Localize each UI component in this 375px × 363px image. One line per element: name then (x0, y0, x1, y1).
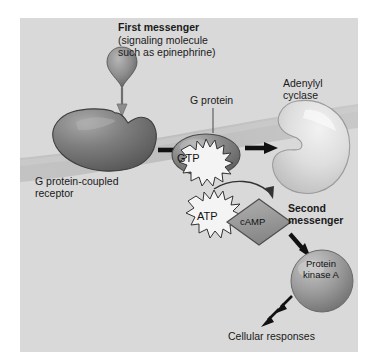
adenylyl-label-line2: cyclase (283, 89, 318, 101)
g-protein-label: G protein (190, 95, 233, 107)
gtp-label: GTP (177, 152, 200, 164)
second-messenger-line1: Second (288, 202, 326, 214)
ligand-binding-arrow (117, 88, 127, 116)
pka-label: Proteinkinase A (303, 258, 339, 281)
signaling-pathway-figure: First messenger (signaling moleculesuch … (0, 0, 375, 363)
first-messenger-sub-line2: such as epinephrine) (118, 46, 215, 58)
pka-label-line2: kinase A (303, 269, 339, 280)
pka-label-line1: Protein (306, 258, 336, 269)
atp-label: ATP (197, 210, 218, 222)
first-messenger-sub-line1: (signaling molecule (118, 34, 208, 46)
second-messenger-line2: messenger (288, 214, 343, 226)
cellular-responses-label: Cellular responses (228, 331, 315, 343)
adenylyl-cyclase-label: Adenylylcyclase (283, 78, 323, 102)
gpcr-label-line1: G protein-coupled (35, 175, 118, 187)
adenylyl-label-line1: Adenylyl (283, 77, 323, 89)
first-messenger-label: First messenger (118, 22, 199, 34)
camp-label: cAMP (240, 216, 265, 227)
gpcr-label: G protein-coupledreceptor (35, 176, 118, 200)
arrow-pka-to-responses-2 (261, 309, 279, 327)
first-messenger-sublabel: (signaling moleculesuch as epinephrine) (118, 35, 215, 59)
gpcr-label-line2: receptor (35, 187, 74, 199)
second-messenger-label: Secondmessenger (288, 203, 343, 227)
